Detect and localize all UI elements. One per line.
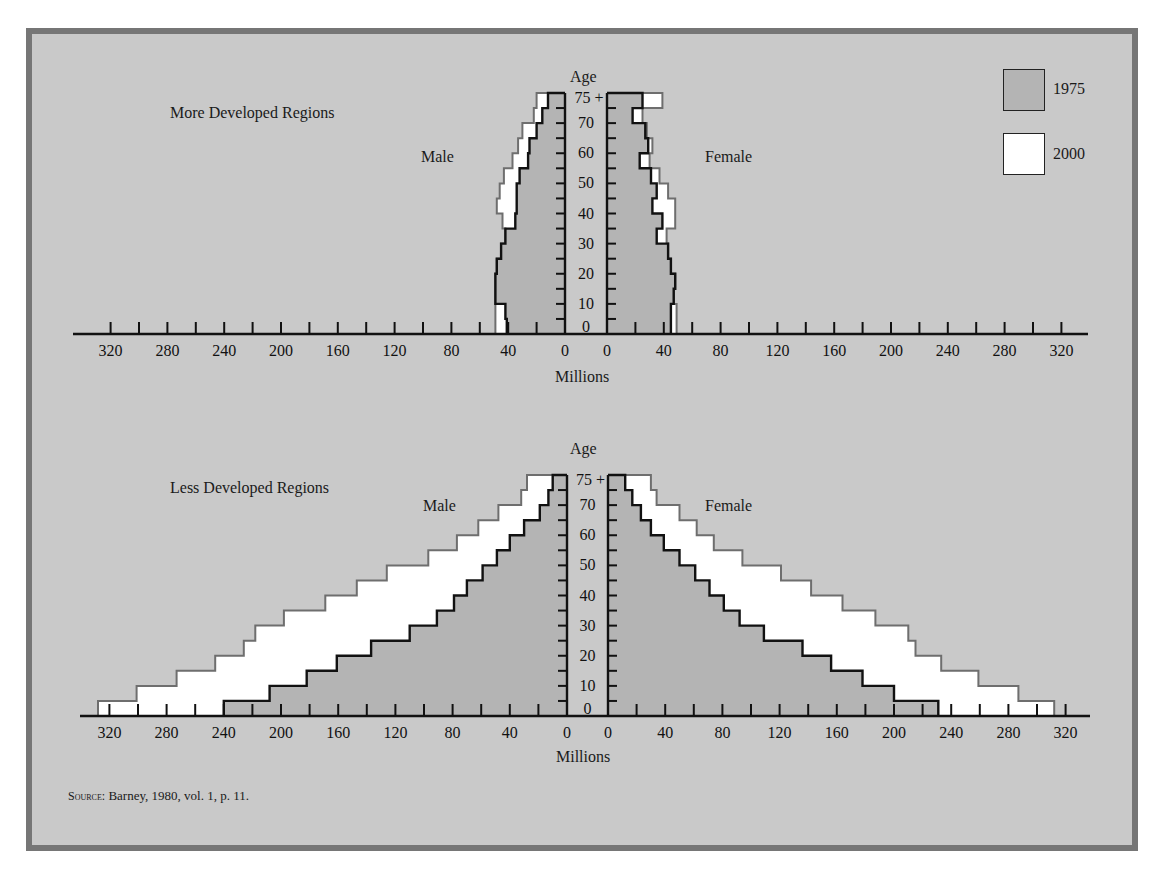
x-tick-label: 80	[443, 342, 459, 359]
x-tick-label: 280	[993, 342, 1017, 359]
x-tick-label: 320	[99, 342, 123, 359]
x-tick-label: 120	[765, 342, 789, 359]
age-tick-label: 75 +	[576, 471, 605, 488]
age-tick-label: 0	[584, 700, 592, 717]
x-tick-label: 320	[1054, 724, 1078, 741]
legend-swatch-1975	[1003, 69, 1045, 111]
legend-swatch-2000	[1003, 133, 1045, 175]
x-tick-label: 160	[825, 724, 849, 741]
bottom-panel-title: Less Developed Regions	[170, 479, 329, 497]
source-text: Barney, 1980, vol. 1, p. 11.	[108, 788, 249, 803]
legend-label-2000: 2000	[1053, 145, 1085, 163]
x-tick-label: 320	[1049, 342, 1073, 359]
x-tick-label: 200	[269, 724, 293, 741]
x-tick-label: 0	[561, 342, 569, 359]
x-tick-label: 80	[714, 724, 730, 741]
bottom-xaxis-label: Millions	[556, 748, 610, 766]
x-tick-label: 0	[604, 724, 612, 741]
x-tick-label: 0	[563, 724, 571, 741]
x-tick-label: 80	[713, 342, 729, 359]
population-pyramids: 01020304050607075 +004040808012012016016…	[0, 0, 1156, 873]
age-tick-label: 70	[578, 114, 594, 131]
x-tick-label: 200	[882, 724, 906, 741]
x-tick-label: 280	[155, 724, 179, 741]
age-tick-label: 20	[578, 265, 594, 282]
x-tick-label: 240	[936, 342, 960, 359]
top-xaxis-label: Millions	[555, 368, 609, 386]
x-tick-label: 120	[383, 724, 407, 741]
bottom-age-label: Age	[570, 440, 597, 458]
x-tick-label: 120	[383, 342, 407, 359]
x-tick-label: 240	[939, 724, 963, 741]
age-tick-label: 30	[580, 617, 596, 634]
bottom-male-label: Male	[423, 497, 456, 515]
source-prefix: Source:	[68, 789, 105, 803]
x-tick-label: 40	[657, 724, 673, 741]
age-tick-label: 30	[578, 235, 594, 252]
bottom-female-label: Female	[705, 497, 752, 515]
x-tick-label: 0	[603, 342, 611, 359]
age-tick-label: 60	[580, 526, 596, 543]
age-tick-label: 10	[578, 295, 594, 312]
age-tick-label: 40	[578, 205, 594, 222]
x-tick-label: 40	[656, 342, 672, 359]
x-tick-label: 160	[822, 342, 846, 359]
x-tick-label: 240	[212, 724, 236, 741]
x-tick-label: 320	[97, 724, 121, 741]
top-female-label: Female	[705, 148, 752, 166]
age-tick-label: 50	[580, 556, 596, 573]
x-tick-label: 120	[768, 724, 792, 741]
x-tick-label: 200	[879, 342, 903, 359]
source-note: Source: Barney, 1980, vol. 1, p. 11.	[68, 788, 249, 804]
age-tick-label: 50	[578, 174, 594, 191]
top-male-label: Male	[421, 148, 454, 166]
age-tick-label: 10	[580, 677, 596, 694]
x-tick-label: 80	[445, 724, 461, 741]
age-tick-label: 60	[578, 144, 594, 161]
age-tick-label: 70	[580, 496, 596, 513]
age-tick-label: 75 +	[574, 89, 603, 106]
x-tick-label: 40	[500, 342, 516, 359]
age-tick-label: 20	[580, 647, 596, 664]
x-tick-label: 160	[326, 724, 350, 741]
x-tick-label: 160	[326, 342, 350, 359]
x-tick-label: 40	[502, 724, 518, 741]
top-panel-title: More Developed Regions	[170, 104, 334, 122]
legend-label-1975: 1975	[1053, 80, 1085, 98]
top-age-label: Age	[570, 68, 597, 86]
x-tick-label: 240	[212, 342, 236, 359]
age-tick-label: 0	[582, 318, 590, 335]
x-tick-label: 200	[269, 342, 293, 359]
x-tick-label: 280	[996, 724, 1020, 741]
x-tick-label: 280	[155, 342, 179, 359]
age-tick-label: 40	[580, 587, 596, 604]
top-pyramid-more-developed: 01020304050607075 +004040808012012016016…	[73, 89, 1088, 359]
bottom-pyramid-less-developed: 01020304050607075 +004040808012012016016…	[80, 471, 1090, 741]
